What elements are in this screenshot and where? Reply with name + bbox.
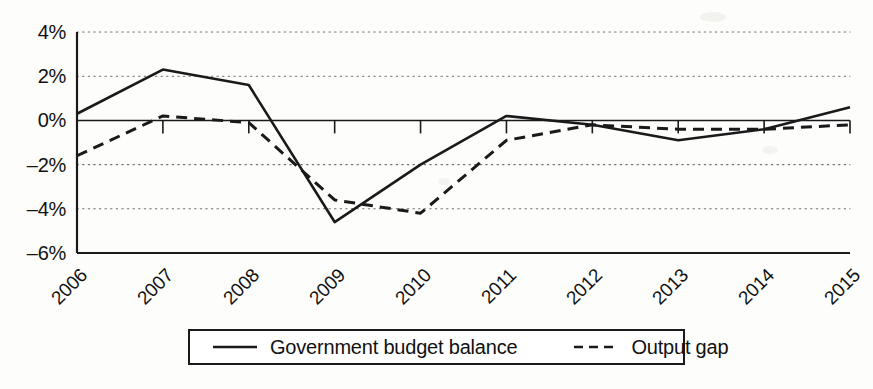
legend-item-output-gap: Output gap <box>573 336 728 359</box>
ytick-label: 2% <box>38 66 66 86</box>
ytick-label: –4% <box>27 199 66 219</box>
series-lines-group <box>77 70 850 222</box>
axis-lines-group <box>77 32 850 253</box>
chart-legend: Government budget balance Output gap <box>188 329 685 365</box>
legend-label-output-gap: Output gap <box>631 336 728 359</box>
legend-item-government-budget-balance: Government budget balance <box>212 336 517 359</box>
ytick-label: –2% <box>27 155 66 175</box>
ytick-label: 0% <box>38 110 66 130</box>
legend-solid-line-icon <box>212 341 258 353</box>
ytick-label: 4% <box>38 22 66 42</box>
legend-label-government-budget-balance: Government budget balance <box>270 336 517 359</box>
ytick-label: –6% <box>27 243 66 263</box>
chart-figure: 4%2%0%–2%–4%–6% 200620072008200920102011… <box>0 0 873 389</box>
series-line-government-budget-balance <box>77 70 850 222</box>
legend-dashed-line-icon <box>573 341 619 353</box>
